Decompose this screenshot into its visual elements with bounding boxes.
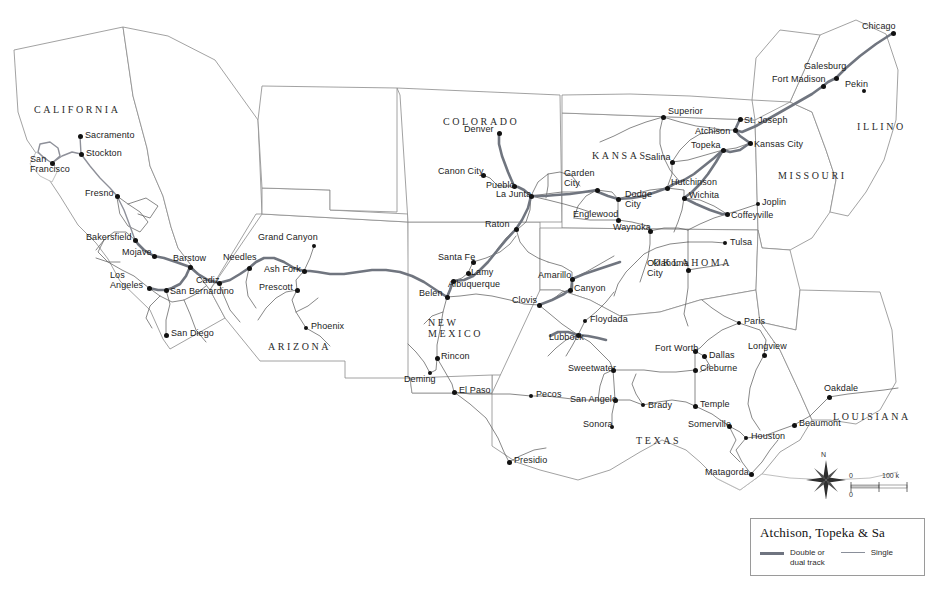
- city-dot[interactable]: [115, 194, 120, 199]
- city-label: Los Angeles: [110, 271, 143, 290]
- city-dot[interactable]: [133, 238, 138, 243]
- city-dot[interactable]: [568, 288, 573, 293]
- city-dot[interactable]: [748, 141, 753, 146]
- city-dot[interactable]: [738, 117, 743, 122]
- city-label: Longview: [748, 342, 787, 352]
- city-dot[interactable]: [147, 286, 152, 291]
- city-label: Matagorda: [705, 468, 749, 478]
- city-dot[interactable]: [507, 460, 512, 465]
- legend-label-single-track: Single: [871, 548, 893, 558]
- city-label: Atchison: [695, 127, 730, 137]
- city-dot[interactable]: [537, 303, 542, 308]
- city-label: Canyon: [574, 284, 606, 294]
- city-label: Lubbock: [549, 333, 584, 343]
- city-dot[interactable]: [744, 436, 748, 440]
- city-dot[interactable]: [616, 197, 621, 202]
- city-label: Needles: [223, 253, 257, 263]
- state-label: NEW MEXICO: [428, 317, 483, 339]
- city-label: Bakersfield: [86, 233, 132, 243]
- legend-item-single-track: Single: [841, 548, 893, 568]
- city-dot[interactable]: [78, 134, 83, 139]
- city-dot[interactable]: [702, 354, 707, 359]
- city-dot[interactable]: [827, 395, 832, 400]
- city-dot[interactable]: [756, 202, 760, 206]
- scale-bar-graphic: [849, 481, 911, 495]
- city-dot[interactable]: [693, 368, 698, 373]
- city-dot[interactable]: [737, 321, 741, 325]
- city-label: Fort Madison: [772, 75, 826, 85]
- city-label: Garden City: [564, 169, 595, 188]
- city-label: Presidio: [514, 456, 547, 466]
- city-label: Raton: [485, 220, 510, 230]
- city-dot[interactable]: [295, 288, 300, 293]
- city-label: Chicago: [862, 22, 896, 32]
- legend-label-double-track: Double or dual track: [790, 548, 825, 568]
- city-label: Temple: [700, 400, 730, 410]
- city-dot[interactable]: [834, 76, 839, 81]
- legend-swatch-double-track: [760, 552, 784, 555]
- city-label: Lamy: [471, 268, 493, 278]
- city-dot[interactable]: [682, 196, 687, 201]
- legend-item-double-track: Double or dual track: [760, 548, 825, 568]
- city-dot[interactable]: [529, 394, 533, 398]
- city-dot[interactable]: [661, 115, 666, 120]
- state-label: MISSOURI: [778, 170, 847, 181]
- state-label: CALIFORNIA: [34, 104, 121, 115]
- city-dot[interactable]: [188, 265, 193, 270]
- city-label: Ash Fork: [264, 265, 301, 275]
- city-label: Sweetwater: [568, 364, 616, 374]
- city-label: La Junta: [496, 190, 531, 200]
- city-label: Sonora: [583, 420, 613, 430]
- city-dot[interactable]: [452, 390, 457, 395]
- city-label: San Angelo: [570, 395, 617, 405]
- state-label: ILLINO: [857, 121, 906, 132]
- city-label: Oakdale: [824, 384, 858, 394]
- city-label: San Bernardino: [170, 287, 234, 297]
- city-dot[interactable]: [497, 131, 502, 136]
- legend-swatch-single-track: [841, 552, 865, 553]
- city-dot[interactable]: [641, 403, 645, 407]
- city-dot[interactable]: [725, 212, 730, 217]
- city-dot[interactable]: [733, 128, 738, 133]
- scale-km-min: 0: [849, 472, 853, 479]
- legend-items: Double or dual track Single: [760, 548, 915, 568]
- city-dot[interactable]: [723, 241, 727, 245]
- city-label: Galesburg: [804, 62, 846, 72]
- city-label: Canon City: [438, 167, 484, 177]
- city-dot[interactable]: [164, 333, 169, 338]
- city-label: Amarillo: [538, 271, 571, 281]
- city-dot[interactable]: [312, 244, 316, 248]
- map-legend: Atchison, Topeka & Sa Double or dual tra…: [750, 518, 925, 576]
- city-dot[interactable]: [466, 271, 471, 276]
- city-label: Topeka: [691, 141, 721, 151]
- city-label: Joplin: [762, 198, 786, 208]
- city-label: Kansas City: [754, 140, 803, 150]
- city-dot[interactable]: [302, 269, 307, 274]
- city-dot[interactable]: [79, 152, 84, 157]
- city-label: Sacramento: [85, 131, 135, 141]
- city-dot[interactable]: [665, 186, 670, 191]
- city-dot[interactable]: [164, 288, 169, 293]
- city-label: Coffeyville: [731, 211, 773, 221]
- city-dot[interactable]: [721, 148, 726, 153]
- city-dot[interactable]: [514, 227, 519, 232]
- city-label: Denver: [464, 125, 494, 135]
- city-dot[interactable]: [247, 266, 252, 271]
- city-dot[interactable]: [595, 188, 600, 193]
- city-dot[interactable]: [445, 295, 450, 300]
- city-dot[interactable]: [583, 319, 587, 323]
- state-label: TEXAS: [636, 435, 681, 446]
- city-dot[interactable]: [152, 254, 157, 259]
- city-dot[interactable]: [435, 356, 440, 361]
- city-dot[interactable]: [749, 472, 754, 477]
- city-dot[interactable]: [792, 423, 797, 428]
- city-dot[interactable]: [762, 353, 767, 358]
- city-dot[interactable]: [693, 404, 698, 409]
- compass-rose: N: [804, 451, 848, 499]
- city-dot[interactable]: [304, 326, 308, 330]
- city-label: Clovis: [512, 296, 537, 306]
- city-label: Deming: [404, 375, 436, 385]
- city-dot[interactable]: [862, 89, 866, 93]
- city-label: Oklahoma City: [647, 259, 689, 278]
